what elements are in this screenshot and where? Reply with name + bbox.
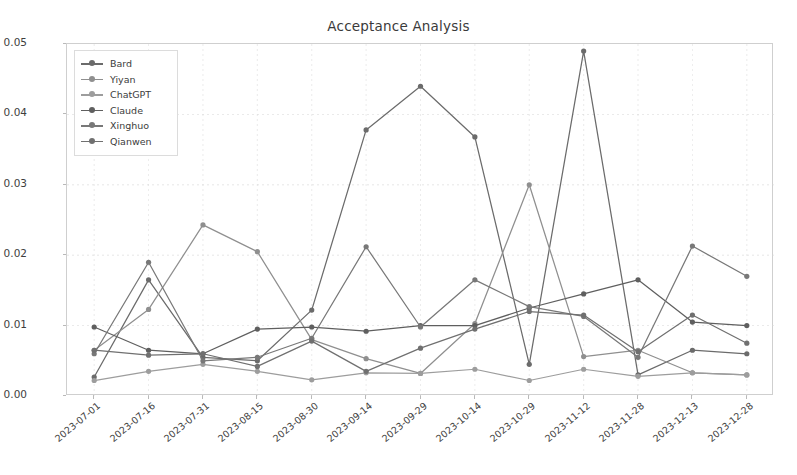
legend-item-label: ChatGPT xyxy=(110,89,151,100)
legend-item-label: Yiyan xyxy=(110,74,136,85)
x-tick-label: 2023-09-29 xyxy=(374,400,429,448)
data-point xyxy=(92,378,97,383)
y-tick-label: 0.00 xyxy=(0,388,27,400)
data-point xyxy=(690,312,695,317)
legend-item-claude[interactable]: Claude xyxy=(81,103,171,119)
data-point xyxy=(146,369,151,374)
x-tick-label: 2023-08-30 xyxy=(265,400,320,448)
data-point xyxy=(92,348,97,353)
data-point xyxy=(200,222,205,227)
data-point xyxy=(418,346,423,351)
data-point xyxy=(309,377,314,382)
data-point xyxy=(744,341,749,346)
data-point xyxy=(309,338,314,343)
x-tick-label: 2023-10-29 xyxy=(483,400,538,448)
x-tick-label: 2023-07-31 xyxy=(156,400,211,448)
data-point xyxy=(581,312,586,317)
data-point xyxy=(364,329,369,334)
data-point xyxy=(309,308,314,313)
data-point xyxy=(255,364,260,369)
data-point xyxy=(200,358,205,363)
data-point xyxy=(146,260,151,265)
data-point xyxy=(635,374,640,379)
x-tick-label: 2023-07-01 xyxy=(48,400,103,448)
data-point xyxy=(472,327,477,332)
data-point xyxy=(527,304,532,309)
data-point xyxy=(581,291,586,296)
legend-item-bard[interactable]: Bard xyxy=(81,56,171,72)
legend-item-xinghuo[interactable]: Xinghuo xyxy=(81,118,171,134)
data-point xyxy=(635,277,640,282)
data-point xyxy=(200,351,205,356)
data-point xyxy=(255,249,260,254)
x-tick-label: 2023-11-12 xyxy=(537,400,592,448)
data-point xyxy=(581,367,586,372)
data-point xyxy=(744,372,749,377)
data-point xyxy=(418,84,423,89)
legend-item-yiyan[interactable]: Yiyan xyxy=(81,72,171,88)
data-point xyxy=(527,362,532,367)
legend-item-label: Claude xyxy=(110,105,143,116)
legend-item-label: Xinghuo xyxy=(110,120,149,131)
legend-item-label: Bard xyxy=(110,58,132,69)
chart-title: Acceptance Analysis xyxy=(0,18,797,34)
y-tick-label: 0.05 xyxy=(0,36,27,48)
y-tick-label: 0.04 xyxy=(0,106,27,118)
data-point xyxy=(527,182,532,187)
legend-marker-icon xyxy=(81,121,103,131)
x-tick-label: 2023-11-28 xyxy=(592,400,647,448)
data-point xyxy=(255,327,260,332)
data-point xyxy=(472,134,477,139)
data-point xyxy=(581,48,586,53)
y-tick-label: 0.03 xyxy=(0,177,27,189)
data-point xyxy=(146,348,151,353)
y-tick-mark xyxy=(63,395,67,396)
data-point xyxy=(472,277,477,282)
data-point xyxy=(690,243,695,248)
x-tick-label: 2023-08-15 xyxy=(211,400,266,448)
data-point xyxy=(364,127,369,132)
x-tick-label: 2023-07-16 xyxy=(102,400,157,448)
data-point xyxy=(255,355,260,360)
chart-figure: Acceptance Analysis Acceptance 0.000.010… xyxy=(0,0,797,475)
data-point xyxy=(146,353,151,358)
data-point xyxy=(418,324,423,329)
data-point xyxy=(472,367,477,372)
data-point xyxy=(255,369,260,374)
data-point xyxy=(690,370,695,375)
data-point xyxy=(146,277,151,282)
data-point xyxy=(364,244,369,249)
data-point xyxy=(690,348,695,353)
data-point xyxy=(92,324,97,329)
y-tick-label: 0.01 xyxy=(0,318,27,330)
legend-marker-icon xyxy=(81,136,103,146)
x-tick-label: 2023-12-28 xyxy=(700,400,755,448)
data-point xyxy=(364,369,369,374)
legend-item-label: Qianwen xyxy=(110,136,152,147)
data-point xyxy=(364,356,369,361)
data-point xyxy=(309,324,314,329)
x-tick-label: 2023-10-14 xyxy=(428,400,483,448)
legend-marker-icon xyxy=(81,90,103,100)
legend-marker-icon xyxy=(81,59,103,69)
legend-item-qianwen[interactable]: Qianwen xyxy=(81,134,171,150)
legend-marker-icon xyxy=(81,105,103,115)
x-tick-label: 2023-09-14 xyxy=(320,400,375,448)
data-point xyxy=(146,307,151,312)
legend-marker-icon xyxy=(81,74,103,84)
data-point xyxy=(527,378,532,383)
data-point xyxy=(744,351,749,356)
data-point xyxy=(581,354,586,359)
data-point xyxy=(635,349,640,354)
legend-item-chatgpt[interactable]: ChatGPT xyxy=(81,87,171,103)
data-point xyxy=(690,319,695,324)
y-tick-label: 0.02 xyxy=(0,247,27,259)
data-point xyxy=(527,309,532,314)
data-point xyxy=(418,371,423,376)
x-tick-label: 2023-12-13 xyxy=(646,400,701,448)
chart-legend: BardYiyanChatGPTClaudeXinghuoQianwen xyxy=(74,50,178,156)
data-point xyxy=(744,323,749,328)
data-point xyxy=(635,355,640,360)
data-point xyxy=(744,274,749,279)
